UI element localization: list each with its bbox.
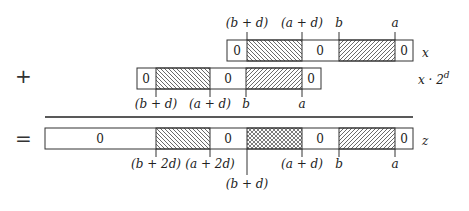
label-a: a — [298, 97, 305, 111]
row-x-hatch-fwd — [339, 40, 395, 61]
row-z-label: z — [421, 134, 429, 148]
zero-text: 0 — [316, 132, 324, 146]
label-a-plus-d: (a + d) — [189, 97, 231, 111]
row-z-hatch-fwd — [339, 128, 395, 149]
zero-text: 0 — [307, 72, 315, 86]
row-x-shifted-label: x · 2d — [418, 70, 450, 87]
label-b: b — [335, 16, 343, 30]
row-x-shifted-hatch-fwd — [246, 68, 302, 89]
zero-text: 0 — [142, 72, 150, 86]
row-z-hatch-back — [156, 128, 210, 149]
label-b-plus-d: (b + d) — [226, 16, 269, 30]
bit-addition-diagram: 0 0 0 (b + d) (a + d) b a x + 0 0 0 (b +… — [0, 0, 469, 211]
label-b: b — [335, 157, 343, 171]
label-b-plus-d: (b + d) — [226, 177, 269, 191]
label-b: b — [242, 97, 250, 111]
equals-operator: = — [15, 126, 32, 150]
label-a-plus-d: (a + d) — [281, 157, 323, 171]
label-a-plus-d: (a + d) — [281, 16, 323, 30]
label-b-plus-2d: (b + 2d) — [131, 157, 181, 171]
row-x: 0 0 0 (b + d) (a + d) b a x — [226, 16, 429, 61]
zero-text: 0 — [96, 132, 104, 146]
zero-text: 0 — [400, 132, 408, 146]
row-x-hatch-back — [247, 40, 302, 61]
zero-text: 0 — [233, 44, 241, 58]
label-a: a — [391, 16, 398, 30]
row-x-shifted: 0 0 0 (b + d) (a + d) b a x · 2d — [135, 68, 450, 111]
zero-text: 0 — [224, 132, 232, 146]
row-z: 0 0 0 0 (b + 2d) (a + 2d) (b + d) (a + d… — [45, 128, 429, 191]
zero-text: 0 — [224, 72, 232, 86]
label-b-plus-d: (b + d) — [135, 97, 178, 111]
label-a-plus-2d: (a + 2d) — [185, 157, 235, 171]
row-x-shifted-hatch-back — [156, 68, 210, 89]
zero-text: 0 — [316, 44, 324, 58]
row-z-crosshatch — [247, 128, 302, 149]
zero-text: 0 — [400, 44, 408, 58]
label-a: a — [391, 157, 398, 171]
row-x-label: x — [422, 46, 429, 60]
plus-operator: + — [15, 64, 32, 88]
